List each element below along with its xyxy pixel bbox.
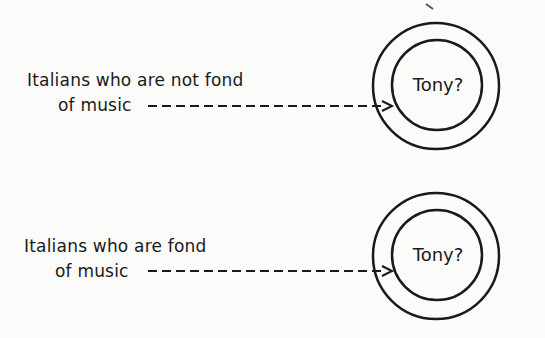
- label-not-fond-of-music: Italians who are not fond of music: [27, 68, 244, 118]
- label-line-1: Italians who are fond: [24, 234, 207, 259]
- label-line-1: Italians who are not fond: [27, 68, 244, 93]
- arrowhead-icon: [382, 101, 392, 111]
- label-fond-of-music: Italians who are fond of music: [24, 234, 207, 284]
- speck-mark: [426, 4, 433, 9]
- circle-label-tony: Tony?: [398, 74, 478, 95]
- circle-label-tony: Tony?: [398, 244, 478, 265]
- arrowhead-icon: [382, 266, 392, 276]
- label-line-2: of music: [27, 93, 244, 118]
- label-line-2: of music: [24, 259, 207, 284]
- diagram-graphics: [0, 0, 545, 338]
